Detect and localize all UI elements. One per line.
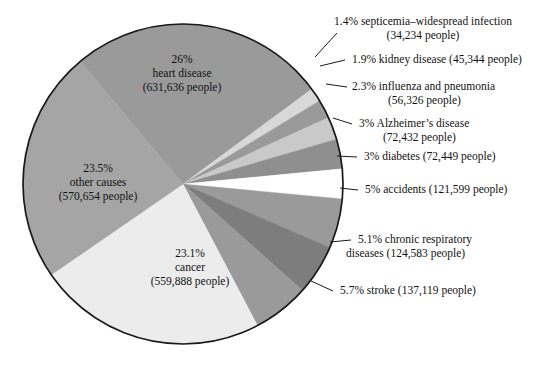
leader-line-influenza-pneumonia xyxy=(326,84,347,87)
callout-stroke-line1: 5.7% stroke (137,119 people) xyxy=(340,284,476,298)
callout-stroke: 5.7% stroke (137,119 people) xyxy=(340,284,476,298)
callout-influenza-pneumonia-line2: (56,326 people) xyxy=(388,94,495,108)
callout-diabetes: 3% diabetes (72,449 people) xyxy=(364,150,496,164)
cancer-name: cancer xyxy=(175,261,205,273)
callout-alzheimers-disease: 3% Alzheimer’s disease (72,432 people) xyxy=(359,117,469,144)
callout-septicemia: 1.4% septicemia–widespread infection (34… xyxy=(292,15,554,42)
callout-chronic-respiratory-line2: diseases (124,583 people) xyxy=(346,247,472,261)
other-causes-name: other causes xyxy=(70,176,127,188)
cancer-percent: 23.1% xyxy=(175,247,205,259)
callout-chronic-respiratory: 5.1% chronic respiratory diseases (124,5… xyxy=(358,233,472,260)
callout-chronic-respiratory-line1: 5.1% chronic respiratory xyxy=(358,233,472,247)
callout-alzheimers-disease-line1: 3% Alzheimer’s disease xyxy=(359,117,469,131)
callout-septicemia-line2: (34,234 people) xyxy=(292,29,554,43)
callout-alzheimers-disease-line2: (72,432 people) xyxy=(383,131,469,145)
pie-chart: 26% heart disease (631,636 people) 23.5%… xyxy=(0,0,558,366)
callout-influenza-pneumonia: 2.3% influenza and pneumonia (56,326 peo… xyxy=(352,80,495,107)
heart-disease-count: (631,636 people) xyxy=(143,81,222,94)
callout-kidney-disease: 1.9% kidney disease (45,344 people) xyxy=(352,53,522,67)
heart-disease-name: heart disease xyxy=(152,67,211,79)
callout-accidents-line1: 5% accidents (121,599 people) xyxy=(365,183,507,197)
other-causes-percent: 23.5% xyxy=(83,162,113,174)
callout-accidents: 5% accidents (121,599 people) xyxy=(365,183,507,197)
callout-diabetes-line1: 3% diabetes (72,449 people) xyxy=(364,150,496,164)
callout-septicemia-line1: 1.4% septicemia–widespread infection xyxy=(292,15,554,29)
leader-line-kidney-disease xyxy=(320,60,345,66)
heart-disease-percent: 26% xyxy=(171,53,193,65)
leader-line-stroke xyxy=(311,281,333,291)
other-causes-count: (570,654 people) xyxy=(59,190,138,203)
leader-line-alzheimers-disease xyxy=(333,118,352,124)
callout-influenza-pneumonia-line1: 2.3% influenza and pneumonia xyxy=(352,80,495,94)
callout-kidney-disease-line1: 1.9% kidney disease (45,344 people) xyxy=(352,53,522,67)
cancer-count: (559,888 people) xyxy=(151,275,230,288)
